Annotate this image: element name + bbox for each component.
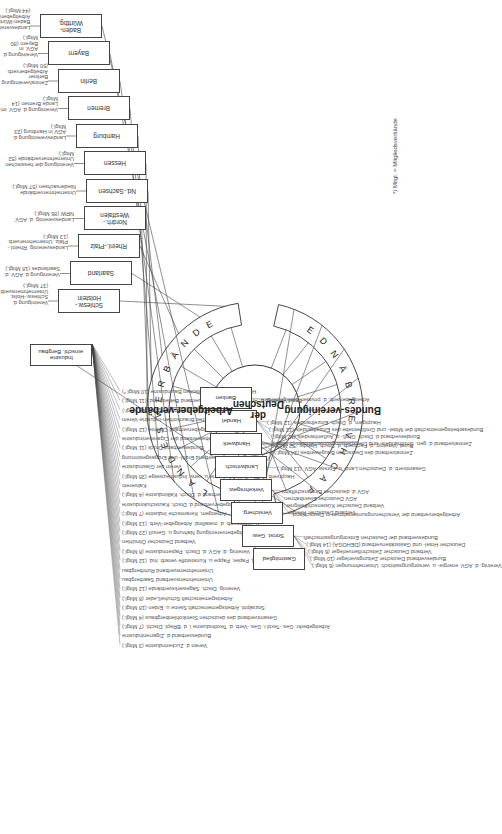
fachverband-member: Bundesverband der Deutschen Entsorgungsw… <box>304 534 438 540</box>
fachverband-member: AGV d. deutschen Binnenschiffahrt <box>282 488 369 494</box>
fachverband-member: Bundesarbeitsgemeinschaft der Mittel- un… <box>269 426 483 432</box>
industrie-member: Kaliverein <box>122 482 147 488</box>
fachverband-member: Bund.-Vereinig. d. Fachverb. d. Dtsch. H… <box>272 442 413 448</box>
landesverband-label-2: Zentralvereinigung Berliner Arbeitgeberv… <box>0 63 48 85</box>
landesverband-label-10: Vereinigung d. Schlesw.-Holst. Unternehm… <box>0 283 48 305</box>
industrie-member: Vereinig. Dtsch. Sägewerksverbände (12 M… <box>122 586 240 592</box>
fachverband-member: Verband Deutscher Küstenschiffseigner <box>286 502 384 508</box>
landesverband-box-4[interactable]: Hamburg <box>76 124 138 148</box>
fachverband-box-0[interactable]: Industrie einschl. Bergbau <box>30 344 92 366</box>
industrie-member: Verein d. Zuckerindustrie (3 Mitgl.) <box>122 642 207 648</box>
industrie-member: Unternehmensverband Saarbergbau <box>122 576 213 582</box>
landesverband-box-9[interactable]: Saarland <box>70 262 132 286</box>
industrie-member: Unternehmensverband Ruhrbergbau <box>122 567 213 573</box>
fachverband-box-8[interactable]: Gastmitglied <box>253 548 305 570</box>
landesverband-label-9: Vereinigung d. AGV. d. Saarlandes (18 Mi… <box>0 266 60 277</box>
fachverband-box-4[interactable]: Landwirtsch. <box>215 456 267 478</box>
center-line: verbände <box>129 405 173 416</box>
fachverband-member: Arbeitgeberverband der Versicherungsunte… <box>293 511 460 517</box>
landesverband-box-10[interactable]: Schlesw.- Holstein <box>58 289 120 313</box>
landesverband-box-5[interactable]: Hessen <box>84 152 146 176</box>
fachverband-member: Gesamtverb. d. Deutschen Land- u. Forstw… <box>277 465 426 471</box>
center-line: Arbeitgeber- <box>174 405 233 416</box>
landesverband-label-3: Vereinigung d. AGV. im Lande Bremen (14 … <box>0 96 58 113</box>
industrie-member: Bundesverband Druck (11 Mitgl.) <box>122 445 203 451</box>
landesverband-box-0[interactable]: Baden- Württbg. <box>40 14 102 38</box>
landesverband-label-4: Landesvereinigung d. AGV in Hamburg (23 … <box>0 123 66 140</box>
fachverband-member: Deutscher Hotel- und Gaststättenverband … <box>306 541 465 547</box>
central-organization-label: Bundes-vereinigungder DeutschenArbeitgeb… <box>217 380 293 440</box>
industrie-member: Verein der Glasindustrie <box>122 464 182 470</box>
industrie-member: Arbeitgeberkr. Ges.-Textil i. Ges.-Verb.… <box>122 623 330 629</box>
industrie-member: Verband Deutscher Ölmühlen <box>122 539 195 545</box>
fachverband-box-5[interactable]: Verkehrsgew. <box>220 479 272 501</box>
landesverband-box-2[interactable]: Berlin <box>58 69 120 93</box>
landesverband-label-5: Vereinigung der hessischen Unternehmerve… <box>0 151 74 168</box>
landesverband-label-6: Unternehmerverbände Niedersachsen (57 Mi… <box>0 184 76 195</box>
landesverband-box-7[interactable]: Nordrh.- Westfalen <box>84 207 146 231</box>
landesverband-label-8: Landesvereinig. Rheinl.-Pfälz. Unternehm… <box>0 233 68 250</box>
landesverband-label-7: Landesvereinig. d. AGV. NRW (86 Mitgl.) <box>0 211 74 222</box>
fachverband-member: Bundesverband Deutscher Zeitungsverleger… <box>310 555 446 561</box>
industrie-member: Arbeitsgemeinschaft Schuhe/Leder (8 Mitg… <box>122 595 232 601</box>
fachverband-member: Verband Deutscher Zeitschriftenverleger … <box>308 548 431 554</box>
landesverband-box-3[interactable]: Bremen <box>68 97 130 121</box>
fachverband-member: Bundesverband d. Dtsch. Groß- u. Außenha… <box>271 433 420 439</box>
industrie-member: Sozialpol. Arbeitsgemeinschaft Steine u.… <box>122 605 265 611</box>
fachverband-member: AGV Deutscher Eisenbahnen <box>284 495 357 501</box>
industrie-member: Vereinig. d. AGV. d. Dtsch. Papierindust… <box>122 548 250 554</box>
industrie-member: Arbeitgem. Keramische Industrie (7 Mitgl… <box>122 511 226 517</box>
industrie-member: Gesamtverband des deutschen Steinkohlenb… <box>122 614 277 620</box>
industrie-member: Bundesverband d. Zigarrenindustrie <box>122 633 211 639</box>
landesverband-label-0: Landesvereinigung Baden-Württbg. Arbeitg… <box>0 8 30 30</box>
landesverband-box-6[interactable]: Nd.-Sachsen <box>86 179 148 203</box>
landesverband-label-1: Vereinigung d. AGV. in Bayern (80 Mitgl.… <box>0 35 38 57</box>
landesverband-box-1[interactable]: Bayern <box>48 42 110 66</box>
industrie-member: Arbeitgeberverband d. Dtsch. Kautschukin… <box>122 501 244 507</box>
center-line: vereinigung <box>284 405 341 416</box>
fachverband-box-6[interactable]: Versicherg. <box>231 502 283 524</box>
industrie-member: Arbeitgebervereinigung Nahrung u. Genuß … <box>122 529 254 535</box>
landesverband-box-8[interactable]: Rheinl.-Pfalz <box>78 234 140 258</box>
fachverband-box-7[interactable]: Sonst. Gew. <box>242 525 294 547</box>
center-line: der Deutschen <box>233 399 284 421</box>
footnote: *) Mitgl. = Mitgliedsverbände <box>392 118 398 194</box>
center-line: Bundes- <box>341 405 381 416</box>
fachverband-member: Zentralverband des Deutschen Baugewerbes… <box>274 449 413 455</box>
industrie-member: Hauptverb. d. Dtsch. Holzindustrie u. ve… <box>122 473 295 479</box>
fachverband-member: Vereinig. d. AGV. energie- u. versorgung… <box>312 562 502 568</box>
